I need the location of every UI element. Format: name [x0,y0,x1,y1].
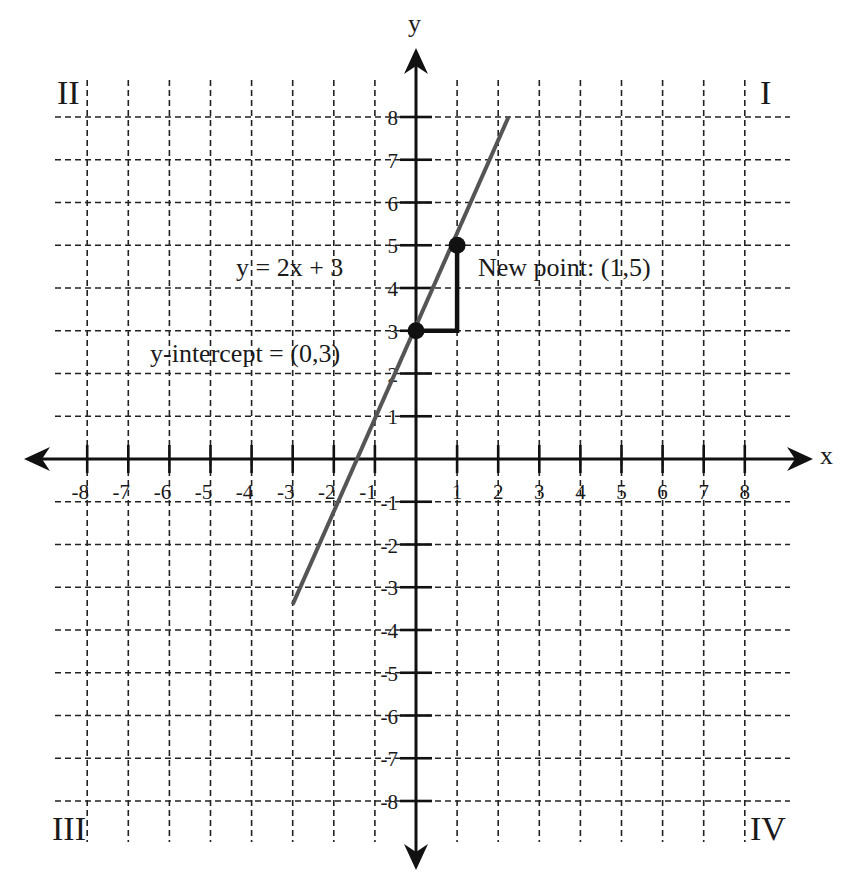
x-tick-label: -4 [236,480,254,504]
x-tick-label: -1 [359,480,377,504]
coordinate-plane: -8-7-6-5-4-3-2-11234567887654321-1-2-3-4… [0,0,859,881]
x-tick-label: -3 [277,480,295,504]
quadrant-label-3: III [52,810,86,847]
y-tick-label: -3 [381,576,399,600]
y-tick-label: -7 [381,747,399,771]
quadrant-label-4: IV [750,810,786,847]
y-tick-label: 5 [388,234,399,258]
y-tick-label: 6 [388,192,399,216]
data-point-marker [449,237,466,254]
x-tick-label: -5 [195,480,213,504]
x-axis-label: x [820,441,833,470]
equation-label: y = 2x + 3 [236,253,343,282]
axes [24,48,813,870]
x-tick-label: 8 [740,480,751,504]
x-tick-label: 3 [534,480,545,504]
y-tick-label: -4 [381,619,399,643]
x-tick-label: 6 [657,480,668,504]
new-point-label: New point: (1,5) [478,253,651,282]
data-point-marker [408,322,425,339]
y-tick-label: 4 [388,277,399,301]
x-tick-label: 4 [575,480,586,504]
y-tick-label: 1 [388,405,399,429]
x-tick-label: -8 [71,480,89,504]
dashed-grid [55,80,790,842]
x-tick-label: 5 [616,480,627,504]
y-axis-label: y [408,9,421,38]
quadrant-label-2: II [57,74,80,111]
x-tick-label: -2 [318,480,336,504]
x-tick-label: -7 [113,480,131,504]
y-tick-label: 8 [388,106,399,130]
y-tick-label: -6 [381,705,399,729]
quadrant-label-1: I [760,74,771,111]
y-intercept-label: y-intercept = (0,3) [150,339,340,368]
y-tick-label: -5 [381,662,399,686]
x-tick-label: 7 [698,480,709,504]
x-tick-label: 2 [493,480,504,504]
y-tick-label: -1 [381,491,399,515]
y-tick-label: 7 [388,149,399,173]
y-tick-label: -8 [381,790,399,814]
x-tick-label: 1 [452,480,463,504]
y-tick-label: 3 [388,320,399,344]
y-tick-label: -2 [381,534,399,558]
x-tick-label: -6 [154,480,172,504]
